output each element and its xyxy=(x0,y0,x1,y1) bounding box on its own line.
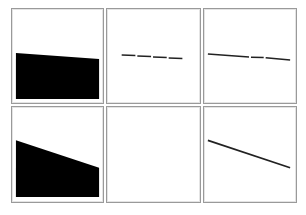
segmented-line xyxy=(204,9,296,103)
dashed-line xyxy=(107,9,200,103)
panel-r1c3 xyxy=(203,8,297,104)
filled-region-shallow xyxy=(12,9,103,103)
panel-r2c3 xyxy=(203,106,297,203)
descending-line xyxy=(204,107,296,202)
panel-r2c2 xyxy=(106,106,201,203)
panel-r1c1 xyxy=(11,8,104,104)
panel-r2c1 xyxy=(11,106,104,203)
panel-r1c2 xyxy=(106,8,201,104)
filled-region-steep xyxy=(12,107,103,202)
